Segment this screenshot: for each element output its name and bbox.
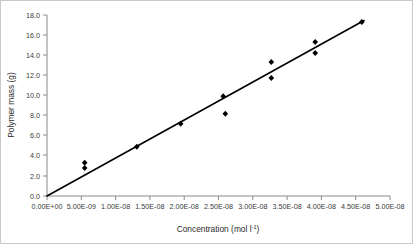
y-tick-label: 10.0 — [26, 91, 40, 100]
data-point — [269, 59, 275, 65]
scatter-chart: 0.0 2.0 4.0 6.0 8.0 10.0 12.0 14.0 16.0 … — [0, 0, 414, 245]
x-axis-title-close: ) — [257, 224, 260, 234]
y-tick-label: 4.0 — [30, 151, 40, 160]
y-tick-label: 0.0 — [30, 192, 40, 201]
data-point — [312, 39, 318, 45]
x-axis-ticks — [47, 196, 390, 200]
y-axis-title: Polymer mass (g) — [6, 72, 16, 138]
x-tick-label: 4.00E-08 — [307, 202, 336, 211]
y-axis-ticks — [43, 15, 47, 196]
x-axis-title: Concentration (mol l-1) — [177, 224, 260, 234]
y-tick-label: 6.0 — [30, 131, 40, 140]
trendline — [47, 21, 364, 197]
y-tick-label: 8.0 — [30, 111, 40, 120]
data-point — [82, 160, 88, 166]
x-tick-label: 0.00E+00 — [32, 202, 63, 211]
x-tick-label: 3.00E-08 — [238, 202, 267, 211]
y-tick-label: 18.0 — [26, 11, 40, 20]
chart-container: 0.0 2.0 4.0 6.0 8.0 10.0 12.0 14.0 16.0 … — [0, 0, 414, 245]
x-tick-label: 1.50E-08 — [135, 202, 164, 211]
data-points-group — [82, 19, 365, 171]
data-point — [269, 75, 275, 81]
y-tick-label: 2.0 — [30, 172, 40, 181]
data-point — [82, 165, 88, 171]
y-tick-label: 12.0 — [26, 71, 40, 80]
y-tick-label: 14.0 — [26, 51, 40, 60]
data-point — [312, 50, 318, 56]
x-tick-label: 5.00E-09 — [67, 202, 96, 211]
x-tick-label: 5.00E-08 — [375, 202, 404, 211]
y-tick-label: 16.0 — [26, 31, 40, 40]
data-point — [223, 111, 229, 117]
x-tick-label: 2.00E-08 — [170, 202, 199, 211]
x-axis-title-base: Concentration (mol l — [177, 224, 252, 234]
y-axis-tick-labels: 0.0 2.0 4.0 6.0 8.0 10.0 12.0 14.0 16.0 … — [26, 11, 40, 201]
data-point — [220, 93, 226, 99]
x-axis-tick-labels: 0.00E+00 5.00E-09 1.00E-08 1.50E-08 2.00… — [32, 202, 405, 211]
x-tick-label: 1.00E-08 — [101, 202, 130, 211]
x-tick-label: 4.50E-08 — [341, 202, 370, 211]
x-tick-label: 3.50E-08 — [273, 202, 302, 211]
x-tick-label: 2.50E-08 — [204, 202, 233, 211]
